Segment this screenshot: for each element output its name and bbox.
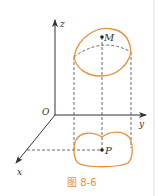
point-p-label: P	[104, 145, 112, 156]
x-axis-label: x	[17, 167, 22, 177]
figure-caption: 图 8-6	[67, 177, 97, 188]
surface-back-arc	[74, 45, 131, 57]
point-m-label: M	[103, 32, 115, 43]
point-p	[100, 148, 104, 152]
y-axis-label: y	[138, 119, 145, 129]
z-axis-label: z	[59, 19, 65, 29]
figure-8-6: z y x O M P 图 8-6	[0, 0, 158, 196]
x-axis	[16, 115, 55, 163]
origin-label: O	[42, 107, 50, 117]
